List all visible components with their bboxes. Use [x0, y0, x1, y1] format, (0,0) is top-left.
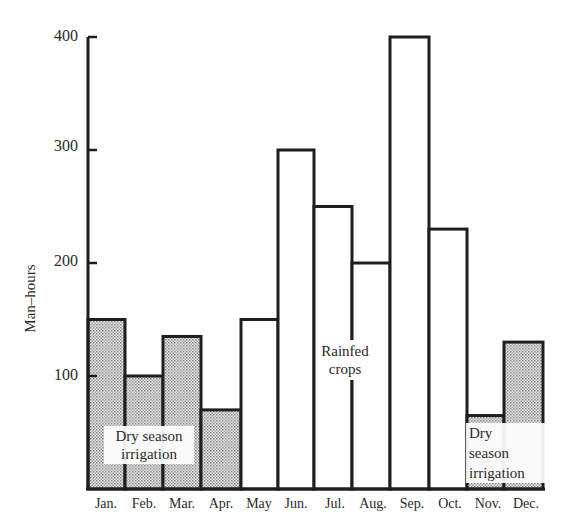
y-axis-label: Man–hours: [22, 249, 39, 349]
x-label-dec: Dec.: [501, 496, 551, 512]
annotation-rainfed-crops: Rainfed crops: [318, 340, 372, 380]
annotation-dry-season-left: Dry season irrigation: [104, 426, 194, 464]
bar-apr: [201, 410, 241, 489]
y-tick-300: 300: [38, 137, 78, 155]
bar-sep: [390, 37, 429, 489]
annotation-dry-season-right: Dry season irrigation: [466, 423, 545, 483]
annotation-line: crops: [318, 360, 372, 378]
bar-jun: [278, 150, 314, 489]
annotation-line: Dry: [469, 423, 545, 443]
bar-mar: [163, 336, 201, 489]
annotation-line: season: [469, 443, 545, 463]
annotation-line: Rainfed: [318, 342, 372, 360]
bar-oct: [429, 229, 467, 489]
y-tick-200: 200: [38, 252, 78, 270]
annotation-line: Dry season: [104, 427, 194, 445]
annotation-line: irrigation: [104, 445, 194, 463]
bars-group: [86, 37, 545, 489]
y-tick-400: 400: [38, 27, 78, 45]
bar-may: [241, 320, 278, 490]
y-tick-100: 100: [38, 366, 78, 384]
annotation-line: irrigation: [469, 463, 545, 483]
